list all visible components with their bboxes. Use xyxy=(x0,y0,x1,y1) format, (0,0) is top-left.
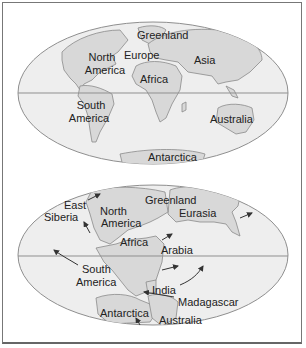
label-africa: Africa xyxy=(140,73,168,85)
label-asia: Asia xyxy=(194,54,215,66)
label-europe: Europe xyxy=(124,49,159,61)
label-south-america-1: South xyxy=(82,263,111,275)
label-north-america-1: North xyxy=(79,51,125,63)
label-eurasia: Eurasia xyxy=(179,207,216,219)
label-greenland: Greenland xyxy=(137,29,188,41)
label-australia: Australia xyxy=(159,314,202,326)
label-australia: Australia xyxy=(210,113,253,125)
label-antarctica: Antarctica xyxy=(148,151,197,163)
label-south-america-1: South xyxy=(68,99,114,111)
label-south-america-2: America xyxy=(76,276,116,288)
label-east: East xyxy=(64,199,86,211)
label-madagascar: Madagascar xyxy=(178,296,239,308)
present-day-map xyxy=(18,22,288,170)
label-north-america-2: America xyxy=(82,64,128,76)
label-siberia: Siberia xyxy=(44,211,78,223)
label-africa: Africa xyxy=(120,236,148,248)
past-configuration-map xyxy=(18,185,288,326)
label-antarctica: Antarctica xyxy=(100,307,149,319)
label-arabia: Arabia xyxy=(161,244,193,256)
label-india: India xyxy=(152,284,176,296)
label-north-america-2: America xyxy=(101,217,141,229)
label-north-america-1: North xyxy=(100,205,127,217)
label-greenland: Greenland xyxy=(145,194,196,206)
label-south-america-2: America xyxy=(66,112,112,124)
